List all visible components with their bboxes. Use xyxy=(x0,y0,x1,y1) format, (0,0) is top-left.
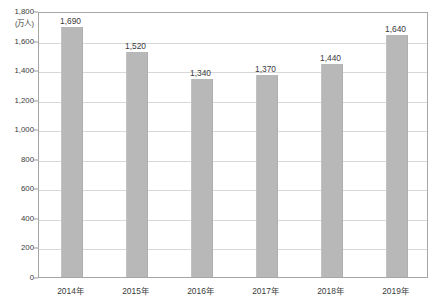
bar-value-label: 1,340 xyxy=(190,68,211,78)
y-axis-tick-label: 600 xyxy=(0,185,34,193)
bar-value-label: 1,690 xyxy=(60,16,81,26)
y-axis-tick-label: 1,400 xyxy=(0,67,34,75)
y-axis-tick-label: 1,000 xyxy=(0,126,34,134)
y-axis-tick-mark xyxy=(34,41,38,42)
y-axis-tick-label: 0 xyxy=(0,274,34,282)
y-axis-tick-mark xyxy=(34,100,38,101)
x-axis-category-label: 2015年 xyxy=(122,286,149,296)
bar xyxy=(126,52,148,277)
bar-chart: (万人) 1,8001,6001,4001,2001,0008006004002… xyxy=(0,0,444,308)
y-axis-labels: 1,8001,6001,4001,2001,0008006004002000 xyxy=(0,0,34,308)
y-axis-tick-label: 1,600 xyxy=(0,38,34,46)
bar xyxy=(321,64,343,277)
x-axis-category-label: 2019年 xyxy=(382,286,409,296)
bar-value-label: 1,370 xyxy=(255,64,276,74)
y-axis-tick-mark xyxy=(34,218,38,219)
plot-area xyxy=(38,12,428,278)
y-axis-tick-mark xyxy=(34,159,38,160)
y-axis-tick-mark xyxy=(34,248,38,249)
x-axis-category-label: 2016年 xyxy=(187,286,214,296)
y-axis-tick-label: 1,800 xyxy=(0,8,34,16)
y-axis-tick-mark xyxy=(34,278,38,279)
bar-value-label: 1,520 xyxy=(125,41,146,51)
bars xyxy=(39,13,427,277)
y-axis-tick-label: 1,200 xyxy=(0,97,34,105)
bar-value-label: 1,440 xyxy=(320,53,341,63)
y-axis-tick-mark xyxy=(34,189,38,190)
bar xyxy=(61,27,83,277)
bar xyxy=(386,35,408,277)
x-axis-category-label: 2017年 xyxy=(252,286,279,296)
y-axis-tick-label: 200 xyxy=(0,244,34,252)
x-axis-category-label: 2018年 xyxy=(317,286,344,296)
bar xyxy=(256,75,278,277)
y-axis-tick-mark xyxy=(34,71,38,72)
x-axis-category-label: 2014年 xyxy=(57,286,84,296)
y-axis-tick-mark xyxy=(34,130,38,131)
y-axis-tick-mark xyxy=(34,12,38,13)
bar-value-label: 1,640 xyxy=(385,24,406,34)
bar xyxy=(191,79,213,277)
y-axis-tick-label: 800 xyxy=(0,156,34,164)
y-axis-tick-label: 400 xyxy=(0,215,34,223)
